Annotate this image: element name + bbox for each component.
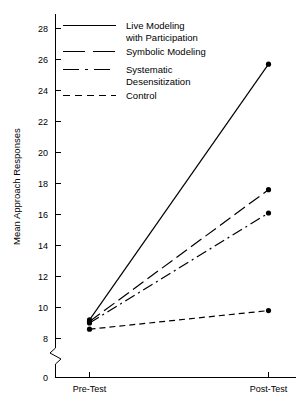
legend-label-control: Control: [126, 90, 157, 101]
y-axis-title: Mean Approach Responses: [11, 128, 22, 245]
y-axis-break-symbol: [50, 348, 61, 364]
x-tick-label-post-test: Post-Test: [250, 384, 288, 394]
data-point-symbolic-modeling-post: [266, 187, 271, 192]
y-tick-label-12: 12: [38, 272, 48, 282]
legend-item-systematic-desensitization: Systematic Desensitization: [63, 64, 190, 87]
y-tick-label-26: 26: [38, 55, 48, 65]
data-point-markers: [87, 62, 271, 332]
y-tick-label-18: 18: [38, 179, 48, 189]
y-tick-label-10: 10: [38, 303, 48, 313]
legend-label-systematic-desensitization-line2: Desensitization: [126, 76, 190, 87]
legend-label-live-modeling-line1: Live Modeling: [126, 20, 185, 31]
legend-label-symbolic-modeling: Symbolic Modeling: [126, 46, 206, 57]
data-point-systematic-desensitization-post: [266, 210, 271, 215]
chart-container: Mean Approach Responses 28 26 24: [0, 0, 302, 404]
y-tick-label-16: 16: [38, 210, 48, 220]
y-tick-label-8: 8: [43, 334, 48, 344]
y-tick-label-14: 14: [38, 241, 48, 251]
x-axis-ticks: [90, 372, 269, 378]
y-tick-label-24: 24: [38, 86, 48, 96]
legend-label-live-modeling-line2: with Participation: [125, 32, 198, 43]
data-point-live-modeling-post: [266, 62, 271, 67]
series-line-live-modeling: [90, 64, 269, 320]
series-line-systematic-desensitization: [90, 213, 269, 323]
chart-legend: Live Modeling with Participation Symboli…: [63, 20, 206, 101]
y-tick-label-0: 0: [43, 373, 48, 383]
data-point-systematic-desensitization-pre: [87, 320, 92, 325]
legend-label-systematic-desensitization-line1: Systematic: [126, 64, 173, 75]
legend-item-live-modeling: Live Modeling with Participation: [63, 20, 198, 43]
series-line-control: [90, 311, 269, 330]
x-tick-label-pre-test: Pre-Test: [73, 384, 107, 394]
y-tick-label-22: 22: [38, 117, 48, 127]
y-tick-label-28: 28: [38, 24, 48, 34]
data-point-control-post: [266, 308, 271, 313]
y-axis-ticks: [56, 29, 62, 339]
data-point-control-pre: [87, 327, 92, 332]
y-tick-label-20: 20: [38, 148, 48, 158]
legend-item-control: Control: [63, 90, 157, 101]
series-line-symbolic-modeling: [90, 190, 269, 322]
legend-item-symbolic-modeling: Symbolic Modeling: [63, 46, 206, 57]
line-chart: Mean Approach Responses 28 26 24: [0, 0, 302, 404]
y-axis-tick-labels: 28 26 24 22 20 18 16 14 12 10 8 0: [38, 24, 48, 383]
